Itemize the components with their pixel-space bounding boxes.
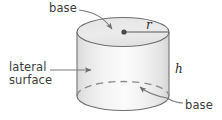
label-lateral-surface: lateral surface bbox=[9, 61, 52, 86]
cylinder-figure: base lateral surface base r h bbox=[0, 0, 222, 120]
label-height-symbol: h bbox=[175, 62, 183, 76]
label-radius-symbol: r bbox=[146, 18, 152, 32]
label-base-bottom: base bbox=[185, 99, 213, 112]
leader-base-bottom bbox=[167, 98, 183, 103]
center-dot-icon bbox=[121, 29, 126, 34]
label-base-top: base bbox=[49, 2, 77, 15]
